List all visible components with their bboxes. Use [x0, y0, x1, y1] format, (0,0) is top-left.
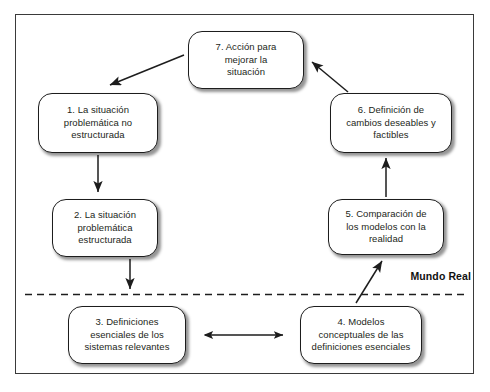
- node-1-line-2: problemática no: [64, 117, 132, 130]
- node-1-situacion-no-estructurada[interactable]: 1. La situación problemática no estructu…: [38, 93, 158, 153]
- node-7-line-3: situación: [216, 66, 277, 79]
- node-5-line-3: realidad: [345, 233, 426, 246]
- node-4-modelos-conceptuales[interactable]: 4. Modelos conceptuales de las definicio…: [300, 306, 422, 364]
- node-2-line-1: 2. La situación: [74, 209, 136, 222]
- node-4-line-3: definiciones esenciales: [312, 341, 411, 354]
- diagram-canvas: 7. Acción para mejorar la situación 1. L…: [0, 0, 490, 392]
- node-5-comparacion-modelos-realidad[interactable]: 5. Comparación de los modelos con la rea…: [328, 199, 444, 255]
- node-7-accion-para-mejorar[interactable]: 7. Acción para mejorar la situación: [188, 31, 304, 89]
- node-3-line-2: esenciales de los: [85, 329, 170, 342]
- node-7-line-1: 7. Acción para: [216, 41, 277, 54]
- node-5-line-2: los modelos con la: [345, 221, 426, 234]
- node-1-line-1: 1. La situación: [64, 104, 132, 117]
- node-4-line-1: 4. Modelos: [312, 316, 411, 329]
- node-5-line-1: 5. Comparación de: [345, 208, 426, 221]
- node-3-line-3: sistemas relevantes: [85, 341, 170, 354]
- node-6-line-2: cambios deseables y: [346, 117, 436, 130]
- node-2-line-2: problemática: [74, 222, 136, 235]
- node-1-line-3: estructurada: [64, 129, 132, 142]
- node-4-line-2: conceptuales de las: [312, 329, 411, 342]
- node-6-line-3: factibles: [346, 129, 436, 142]
- mundo-real-label: Mundo Real: [411, 270, 472, 282]
- node-3-definiciones-esenciales[interactable]: 3. Definiciones esenciales de los sistem…: [68, 306, 186, 364]
- node-2-line-3: estructurada: [74, 234, 136, 247]
- node-6-line-1: 6. Definición de: [346, 104, 436, 117]
- node-2-situacion-estructurada[interactable]: 2. La situación problemática estructurad…: [52, 199, 158, 257]
- node-3-line-1: 3. Definiciones: [85, 316, 170, 329]
- node-7-line-2: mejorar la: [216, 54, 277, 67]
- node-6-definicion-cambios[interactable]: 6. Definición de cambios deseables y fac…: [330, 93, 452, 153]
